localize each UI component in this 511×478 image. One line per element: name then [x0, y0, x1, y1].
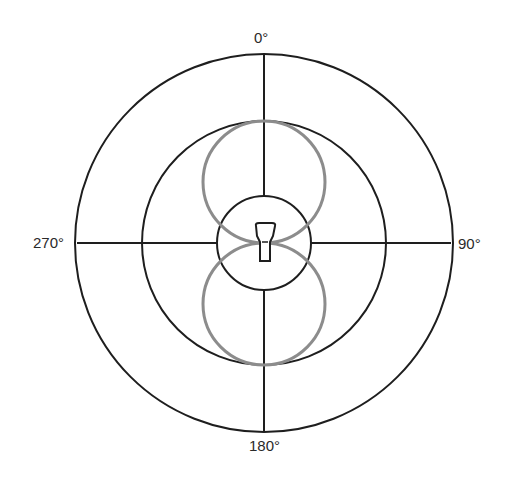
label-180-degrees: 180°	[249, 437, 280, 454]
label-270-degrees: 270°	[33, 234, 64, 251]
label-90-degrees: 90°	[458, 235, 481, 252]
label-0-degrees: 0°	[254, 29, 268, 46]
polar-diagram	[0, 0, 511, 478]
